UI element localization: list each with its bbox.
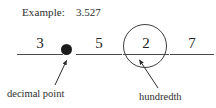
place-slot-tenths: 5	[76, 25, 122, 59]
annotation-decimal-point: decimal point	[7, 88, 64, 100]
blank-rule-ones	[17, 54, 63, 55]
example-value: 3.527	[76, 6, 101, 18]
digit-thousandths: 7	[170, 36, 214, 51]
example-label: Example:	[22, 6, 65, 18]
example-row: Example: 3.527	[22, 6, 101, 18]
digit-ones: 3	[17, 36, 63, 51]
hundredths-highlight-circle	[123, 24, 167, 68]
blank-rule-tenths	[76, 54, 122, 55]
annotation-hundredth: hundredth	[139, 91, 182, 103]
place-slot-ones: 3	[17, 25, 63, 59]
place-slot-thousandths: 7	[170, 25, 214, 59]
decimal-place-value-diagram: Example: 3.527 3 5 2 7	[0, 0, 216, 108]
blank-rule-thousandths	[170, 54, 214, 55]
digit-tenths: 5	[76, 36, 122, 51]
place-value-row: 3 5 2 7	[0, 25, 216, 70]
decimal-point-dot	[61, 44, 72, 55]
